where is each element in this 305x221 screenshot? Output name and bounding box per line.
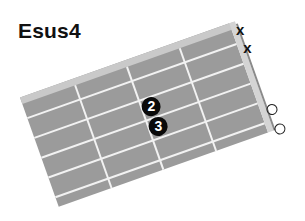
finger-number: 3 (154, 117, 162, 136)
muted-string-icon: x (233, 23, 247, 37)
open-string-icon (273, 122, 287, 136)
muted-string-icon: x (240, 41, 254, 55)
chord-title: Esus4 (18, 19, 81, 43)
finger-number: 2 (147, 97, 155, 116)
